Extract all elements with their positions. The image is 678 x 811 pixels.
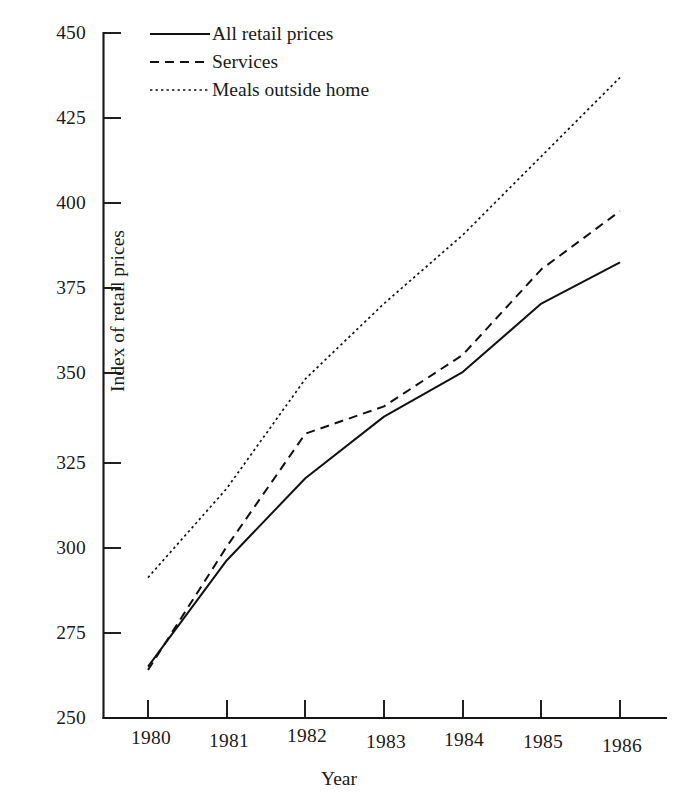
series-line-all-retail-prices xyxy=(148,262,620,666)
y-axis-title: Index of retail prices xyxy=(107,181,129,441)
plot-area xyxy=(0,0,678,811)
series-line-services xyxy=(148,211,620,670)
x-tick-label-1981: 1981 xyxy=(209,730,249,752)
legend-label-services: Services xyxy=(212,51,278,73)
x-tick-label-1985: 1985 xyxy=(523,731,563,753)
x-tick-label-1983: 1983 xyxy=(366,731,406,753)
legend-swatch-dotted-icon xyxy=(149,83,211,97)
x-axis-ticks xyxy=(148,700,620,718)
x-tick-label-1986: 1986 xyxy=(602,735,642,757)
y-tick-label-275: 275 xyxy=(14,622,86,644)
legend-item-meals-outside-home: Meals outside home xyxy=(149,76,369,104)
y-tick-label-325: 325 xyxy=(14,452,86,474)
legend-swatch-solid-icon xyxy=(149,27,211,41)
x-tick-label-1980: 1980 xyxy=(131,727,171,749)
legend-swatch-dashed-icon xyxy=(149,55,211,69)
x-tick-label-1982: 1982 xyxy=(287,725,327,747)
series-line-meals-outside-home xyxy=(148,78,620,578)
legend-label-meals-outside-home: Meals outside home xyxy=(212,79,369,101)
chart-legend: All retail prices Services Meals outside… xyxy=(149,20,369,104)
y-tick-label-450: 450 xyxy=(14,22,86,44)
x-axis-title: Year xyxy=(0,768,678,790)
x-tick-label-1984: 1984 xyxy=(444,729,484,751)
y-tick-label-400: 400 xyxy=(14,192,86,214)
y-tick-label-375: 375 xyxy=(14,277,86,299)
legend-item-all-retail-prices: All retail prices xyxy=(149,20,369,48)
chart-figure: 450 425 400 375 350 325 300 275 250 1980… xyxy=(0,0,678,811)
y-tick-label-350: 350 xyxy=(14,362,86,384)
legend-label-all-retail-prices: All retail prices xyxy=(212,23,333,45)
y-tick-label-250: 250 xyxy=(14,707,86,729)
y-tick-label-425: 425 xyxy=(14,107,86,129)
legend-item-services: Services xyxy=(149,48,369,76)
y-tick-label-300: 300 xyxy=(14,537,86,559)
